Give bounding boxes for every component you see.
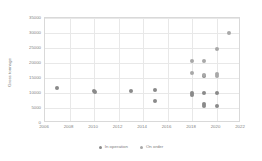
data-point (215, 91, 219, 95)
y-axis-tick-label: 25000 (11, 45, 41, 50)
data-point (55, 86, 59, 90)
x-axis-tick-label: 2006 (39, 124, 49, 130)
x-axis-tick-labels: 200620082010201220142016201820202022 (44, 124, 240, 134)
gridline-vertical (168, 18, 169, 121)
data-point (129, 89, 133, 93)
gridline-horizontal (45, 18, 239, 19)
y-axis-tick-label: 15000 (11, 75, 41, 80)
data-point (153, 99, 157, 103)
gridline-vertical (143, 18, 144, 121)
x-axis-tick-label: 2018 (186, 124, 196, 130)
gridline-vertical (192, 18, 193, 121)
data-point (190, 71, 194, 75)
data-point (202, 59, 206, 63)
legend-item[interactable]: On order (140, 144, 163, 150)
gridline-vertical (70, 18, 71, 121)
data-point (202, 91, 206, 95)
legend-item[interactable]: In operation (99, 144, 128, 150)
y-axis-tick-label: 10000 (11, 90, 41, 95)
y-axis-tick-label: 0 (11, 120, 41, 125)
x-axis-tick-label: 2010 (88, 124, 98, 130)
data-point (227, 31, 231, 35)
x-axis-tick-label: 2022 (235, 124, 245, 130)
data-point (93, 90, 97, 94)
x-axis-tick-label: 2014 (137, 124, 147, 130)
legend-label: In operation (105, 144, 128, 150)
data-point (215, 74, 219, 78)
y-axis-title: Gross tonnage (7, 44, 12, 102)
legend-marker-icon (140, 146, 143, 149)
y-axis-tick-label: 35000 (11, 15, 41, 20)
y-axis-tick-labels: 05000100001500020000250003000035000 (8, 0, 41, 161)
data-point (215, 104, 219, 108)
gridline-horizontal (45, 93, 239, 94)
data-point (153, 88, 157, 92)
x-axis-tick-label: 2020 (211, 124, 221, 130)
gridline-horizontal (45, 48, 239, 49)
gridline-horizontal (45, 63, 239, 64)
scatter-chart: 05000100001500020000250003000035000 Gros… (0, 0, 262, 161)
gridline-horizontal (45, 33, 239, 34)
gridline-horizontal (45, 108, 239, 109)
legend-marker-icon (99, 146, 102, 149)
x-axis-tick-label: 2016 (162, 124, 172, 130)
data-point (190, 59, 194, 63)
data-point (215, 47, 219, 51)
plot-area (44, 17, 240, 122)
data-point (202, 104, 206, 108)
gridline-horizontal (45, 78, 239, 79)
gridline-vertical (94, 18, 95, 121)
y-axis-tick-label: 30000 (11, 30, 41, 35)
gridline-vertical (119, 18, 120, 121)
data-point (190, 93, 194, 97)
y-axis-tick-label: 20000 (11, 60, 41, 65)
x-axis-tick-label: 2008 (64, 124, 74, 130)
x-axis-tick-label: 2012 (113, 124, 123, 130)
data-point (202, 73, 206, 77)
chart-legend: In operationOn order (0, 141, 262, 153)
legend-label: On order (146, 144, 163, 150)
y-axis-tick-label: 5000 (11, 105, 41, 110)
